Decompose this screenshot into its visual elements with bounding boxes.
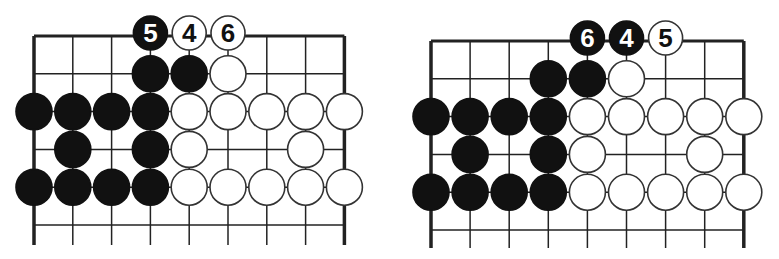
white-stone (171, 131, 207, 167)
white-stone (326, 169, 362, 205)
white-stone (249, 169, 285, 205)
black-stone (132, 131, 168, 167)
white-stone (210, 94, 246, 130)
black-stone (530, 136, 566, 172)
white-stone (210, 56, 246, 92)
black-stone-6: 6 (570, 21, 604, 55)
white-stone (687, 99, 723, 135)
black-stone-4: 4 (610, 21, 644, 55)
white-stone (648, 99, 684, 135)
move-number-label: 4 (619, 23, 634, 53)
black-stone (452, 174, 488, 210)
white-stone (648, 174, 684, 210)
black-stone (55, 131, 91, 167)
white-stone (569, 136, 605, 172)
white-stone (569, 99, 605, 135)
move-number-label: 5 (658, 23, 672, 53)
white-stone (687, 136, 723, 172)
black-stone (94, 169, 130, 205)
black-stone (16, 169, 52, 205)
white-stone (687, 174, 723, 210)
move-number-label: 4 (182, 18, 197, 48)
black-stone (530, 174, 566, 210)
white-stone (726, 99, 762, 135)
white-stone-5: 5 (649, 21, 683, 55)
black-stone (491, 99, 527, 135)
black-stone (94, 94, 130, 130)
black-stone (16, 94, 52, 130)
black-stone (132, 94, 168, 130)
white-stone (249, 94, 285, 130)
white-stone-4: 4 (172, 16, 206, 50)
white-stone (569, 174, 605, 210)
white-stone (609, 99, 645, 135)
white-stone (171, 94, 207, 130)
black-stone (569, 61, 605, 97)
go-diagrams: 546 645 (0, 0, 779, 259)
move-number-label: 5 (143, 18, 157, 48)
black-stone (413, 99, 449, 135)
black-stone (55, 94, 91, 130)
white-stone-6: 6 (211, 16, 245, 50)
black-stone-5: 5 (133, 16, 167, 50)
white-stone (726, 174, 762, 210)
white-stone (288, 94, 324, 130)
white-stone (326, 94, 362, 130)
black-stone (530, 61, 566, 97)
white-stone (288, 169, 324, 205)
black-stone (491, 174, 527, 210)
move-number-label: 6 (221, 18, 235, 48)
white-stone (609, 174, 645, 210)
white-stone (171, 169, 207, 205)
black-stone (132, 56, 168, 92)
black-stone (452, 99, 488, 135)
black-stone (55, 169, 91, 205)
black-stone (171, 56, 207, 92)
black-stone (413, 174, 449, 210)
go-board-left: 546 (16, 16, 362, 245)
go-board-right: 645 (413, 21, 762, 248)
white-stone (210, 169, 246, 205)
stones: 546 (16, 16, 362, 205)
black-stone (530, 99, 566, 135)
move-number-label: 6 (580, 23, 594, 53)
white-stone (609, 61, 645, 97)
black-stone (132, 169, 168, 205)
black-stone (452, 136, 488, 172)
stones: 645 (413, 21, 762, 210)
white-stone (288, 131, 324, 167)
